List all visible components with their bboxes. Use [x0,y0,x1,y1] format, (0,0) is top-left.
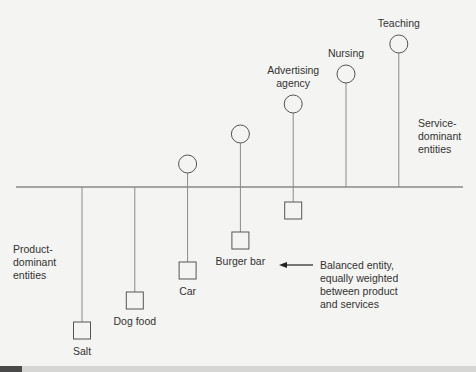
service-group-label-line-2: dominant [418,130,461,142]
entity-advertising-agency: Advertisingagency [267,64,319,219]
product-square-advertising-agency [285,202,302,219]
bottom-dark-block [0,366,22,372]
entity-label-burger-bar: Burger bar [216,255,266,267]
balanced-note-line-4: and services [320,298,379,310]
product-square-burger-bar [232,232,249,249]
balanced-note-line-1: Balanced entity, [320,259,394,271]
product-group-label-line-2: dominant [13,256,56,268]
product-square-salt [74,322,91,339]
service-circle-advertising-agency [284,95,302,113]
entity-nursing: Nursing [328,47,364,187]
service-group-label-line-1: Service- [418,117,457,129]
service-circle-burger-bar [231,125,249,143]
product-group-label-line-1: Product- [13,243,53,255]
service-group-label-line-3: entities [418,143,451,155]
entity-label-advertising-agency: Advertising [267,64,319,76]
product-service-continuum-diagram: SaltDog foodCarBurger barAdvertisingagen… [0,0,476,372]
arrow-left-icon [279,262,313,268]
bottom-bar [22,366,476,372]
entity-label-teaching: Teaching [378,17,420,29]
entity-dog-food: Dog food [113,187,156,327]
service-circle-car [179,155,197,173]
entity-label-advertising-agency: agency [276,77,311,89]
balanced-note-line-2: equally weighted [320,272,398,284]
product-square-car [179,262,196,279]
entity-label-car: Car [179,285,196,297]
entity-label-salt: Salt [73,345,91,357]
entity-label-dog-food: Dog food [113,315,156,327]
product-group-label-line-3: entities [13,269,46,281]
balanced-note-line-3: between product [320,285,398,297]
service-circle-nursing [337,65,355,83]
service-circle-teaching [390,35,408,53]
entity-burger-bar: Burger bar [216,125,266,267]
entity-label-nursing: Nursing [328,47,364,59]
entity-car: Car [179,155,197,297]
entity-salt: Salt [73,187,91,357]
entity-teaching: Teaching [378,17,420,187]
product-square-dog-food [126,292,143,309]
